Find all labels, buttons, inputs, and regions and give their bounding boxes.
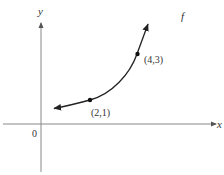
point-4-3: [135, 52, 139, 56]
curve-f: [54, 100, 90, 109]
point-label-2-1: (2,1): [91, 107, 110, 119]
curve-f-upper: [90, 24, 148, 100]
x-axis-label: x: [216, 118, 222, 130]
point-label-4-3: (4,3): [144, 54, 163, 66]
function-graph: y x 0 f (2,1) (4,3): [0, 0, 224, 175]
y-axis-label: y: [37, 5, 43, 17]
origin-label: 0: [32, 128, 37, 139]
point-2-1: [88, 98, 92, 102]
function-label: f: [181, 10, 186, 22]
